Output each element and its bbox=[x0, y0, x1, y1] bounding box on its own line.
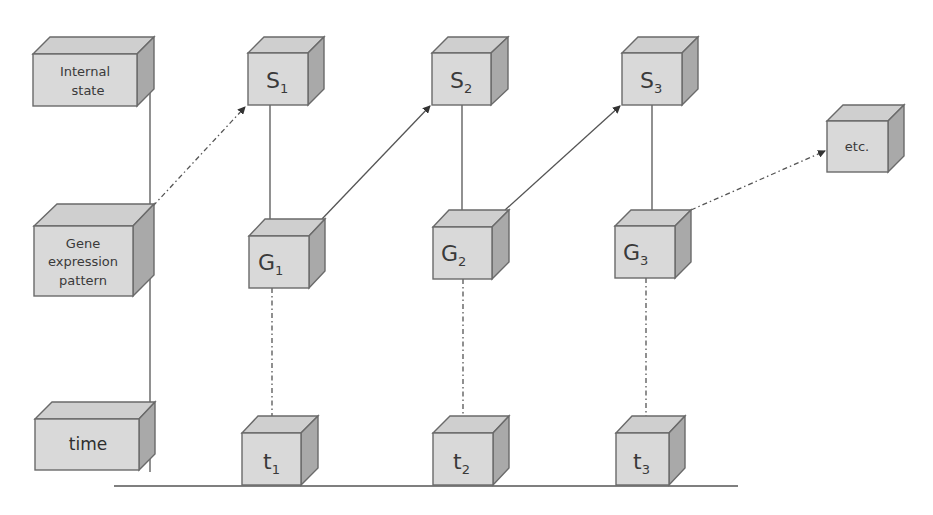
time-t3-box: t3 bbox=[616, 416, 685, 485]
state-s3-box: S3 bbox=[622, 37, 698, 105]
internal-state-label-line2: state bbox=[72, 83, 105, 98]
gene-state-diagram: Internal state Gene expression pattern t… bbox=[0, 0, 933, 515]
arrow-g3-to-etc bbox=[691, 151, 825, 210]
state-s1-box: S1 bbox=[248, 37, 324, 105]
arrow-g1-to-s2 bbox=[322, 106, 430, 219]
arrow-gene-to-s1 bbox=[153, 107, 245, 206]
etc-box: etc. bbox=[827, 105, 904, 172]
internal-state-label-line1: Internal bbox=[60, 64, 110, 79]
gene-g1-box: G1 bbox=[249, 219, 325, 288]
arrow-g2-to-s3 bbox=[505, 106, 620, 210]
gene-expression-box: Gene expression pattern bbox=[34, 204, 154, 296]
time-t1-box: t1 bbox=[242, 416, 318, 485]
gene-expression-label-line3: pattern bbox=[59, 273, 107, 288]
time-label: time bbox=[69, 434, 107, 454]
internal-state-box: Internal state bbox=[33, 37, 154, 106]
gene-expression-label-line1: Gene bbox=[66, 236, 100, 251]
gene-g2-box: G2 bbox=[433, 210, 509, 279]
etc-label: etc. bbox=[845, 139, 869, 154]
gene-g3-box: G3 bbox=[615, 210, 691, 278]
state-s2-box: S2 bbox=[432, 37, 508, 105]
time-t2-box: t2 bbox=[433, 416, 509, 485]
gene-expression-label-line2: expression bbox=[48, 254, 118, 269]
time-box: time bbox=[35, 402, 155, 470]
